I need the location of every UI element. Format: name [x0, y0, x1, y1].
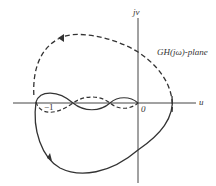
- origin-label: 0: [141, 105, 146, 114]
- vertical-axis-label: jv: [133, 8, 140, 17]
- horizontal-axis-label: u: [199, 98, 204, 107]
- plane-label: GH(jω)-plane: [157, 48, 208, 57]
- nyquist-diagram: [0, 0, 216, 186]
- critical-point-label: −1: [44, 103, 54, 112]
- dashed-direction-arrow-icon: [58, 34, 64, 42]
- dashed-locus: [34, 34, 173, 112]
